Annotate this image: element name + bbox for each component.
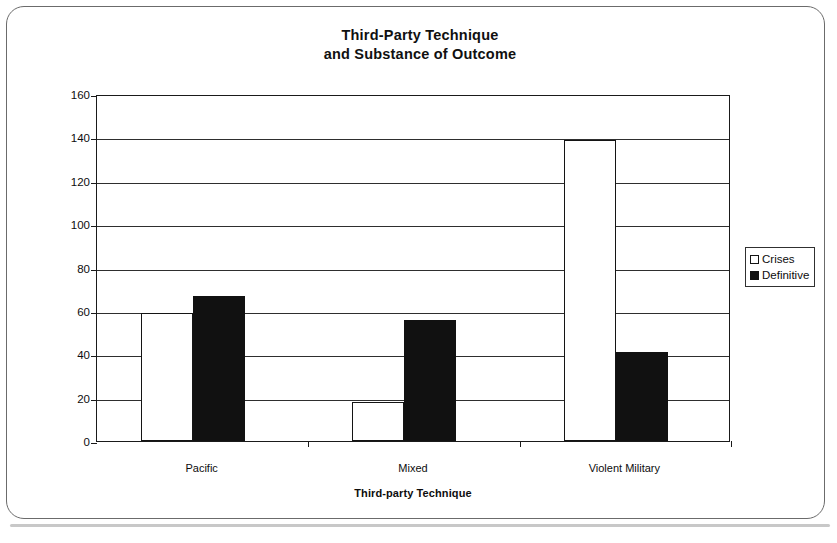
legend-item-definitive: Definitive — [750, 267, 809, 283]
bar-pacific-crises — [141, 313, 193, 441]
chart-title-line-1: Third-Party Technique — [130, 26, 710, 45]
bar-violent-military-crises — [564, 140, 616, 441]
y-axis-tick-label: 20 — [56, 393, 90, 405]
legend-label-crises: Crises — [762, 251, 795, 267]
legend-label-definitive: Definitive — [762, 267, 809, 283]
y-axis-tick-label: 140 — [56, 132, 90, 144]
y-axis-tick-mark — [91, 443, 97, 444]
y-axis-tick-label: 60 — [56, 306, 90, 318]
gridline — [97, 226, 729, 227]
y-axis-tick-mark — [91, 356, 97, 357]
x-axis-tick-mark — [731, 441, 732, 447]
y-axis-tick-mark — [91, 400, 97, 401]
chart-title-line-2: and Substance of Outcome — [130, 45, 710, 64]
y-axis-tick-label: 160 — [56, 89, 90, 101]
bar-pacific-definitive — [193, 296, 245, 441]
plot-area — [96, 95, 730, 442]
y-axis-tick-mark — [91, 270, 97, 271]
y-axis-tick-label: 0 — [56, 436, 90, 448]
y-axis-tick-mark — [91, 313, 97, 314]
x-axis-category-label: Pacific — [185, 462, 217, 474]
chart-title: Third-Party Technique and Substance of O… — [130, 26, 710, 64]
y-axis-tick-mark — [91, 96, 97, 97]
x-axis-category-label: Violent Military — [589, 462, 660, 474]
x-axis-category-label: Mixed — [398, 462, 427, 474]
legend-item-crises: Crises — [750, 251, 809, 267]
gridline — [97, 139, 729, 140]
x-axis-title: Third-party Technique — [96, 487, 730, 499]
chart-legend: Crises Definitive — [745, 247, 815, 287]
bar-violent-military-definitive — [616, 352, 668, 441]
gridline — [97, 183, 729, 184]
y-axis-tick-mark — [91, 183, 97, 184]
y-axis-tick-label: 40 — [56, 349, 90, 361]
y-axis-tick-label: 100 — [56, 219, 90, 231]
y-axis-tick-mark — [91, 226, 97, 227]
chart-page: Third-Party Technique and Substance of O… — [0, 0, 837, 543]
y-axis-tick-label: 80 — [56, 263, 90, 275]
page-border-shadow — [10, 524, 830, 527]
y-axis-tick-label: 120 — [56, 176, 90, 188]
filled-square-icon — [750, 271, 759, 280]
bar-mixed-definitive — [404, 320, 456, 441]
x-axis-tick-mark — [308, 441, 309, 447]
x-axis-tick-mark — [520, 441, 521, 447]
y-axis-tick-mark — [91, 139, 97, 140]
gridline — [97, 270, 729, 271]
bar-mixed-crises — [352, 402, 404, 441]
hollow-square-icon — [750, 255, 759, 264]
